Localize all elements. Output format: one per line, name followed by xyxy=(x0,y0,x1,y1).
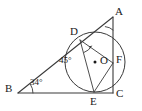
vertex-label-e: E xyxy=(90,96,97,107)
vertex-label-o: O xyxy=(100,55,108,66)
vertex-label-f: F xyxy=(116,54,122,65)
angle-measure-b: 34° xyxy=(30,78,43,87)
center-point-o xyxy=(94,61,97,64)
vertex-label-d: D xyxy=(70,26,78,37)
vertex-label-a: A xyxy=(115,6,123,17)
angle-arc-d xyxy=(84,46,92,53)
geometry-figure: A B C D E F O 45° 34° xyxy=(0,0,142,111)
angle-measure-d: 45° xyxy=(59,56,72,65)
angle-arc-a xyxy=(105,27,113,30)
vertex-label-b: B xyxy=(5,83,12,94)
inscribed-chords xyxy=(80,40,113,92)
vertex-label-c: C xyxy=(116,88,123,99)
